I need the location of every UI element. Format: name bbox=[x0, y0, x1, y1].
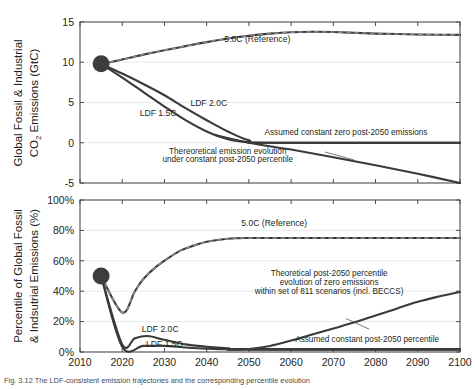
annotations: 5.0C (Reference)LDF 1.5CLDF 2.0CAssumed … bbox=[140, 34, 428, 165]
x-tick-label: 2010 bbox=[68, 356, 92, 368]
y-tick-label: 60% bbox=[53, 255, 74, 267]
start-marker-dot bbox=[93, 268, 110, 285]
y-tick-labels: -5051015 bbox=[62, 16, 74, 189]
x-tick-labels: 2010202020302040205020602070208020902100 bbox=[68, 356, 472, 368]
figure-container: -50510155.0C (Reference)LDF 1.5CLDF 2.0C… bbox=[0, 0, 475, 389]
y-axis-title-line2: CO2 Emissions (GtC) bbox=[28, 49, 43, 158]
bottom-y-axis-title: Percentile of Global Fossil& Indsutrial … bbox=[12, 209, 40, 343]
x-tick-label: 2090 bbox=[406, 356, 430, 368]
top-panel: -50510155.0C (Reference)LDF 1.5CLDF 2.0C… bbox=[62, 16, 460, 189]
theoretical-evolution-label-line2: under constant post-2050 percentile bbox=[162, 155, 293, 164]
figure-caption: Fig. 3.12 The LDF-consistent emission tr… bbox=[4, 376, 472, 388]
ldf15-label: LDF 1.5C bbox=[140, 108, 177, 118]
y-axis-title-line2: & Indsutrial Emissions (%) bbox=[28, 209, 40, 343]
x-tick-label: 2040 bbox=[195, 356, 219, 368]
start-marker-dot bbox=[93, 55, 110, 72]
theoretical-percentile-label-line1: Theoretical post-2050 percentile bbox=[271, 269, 388, 278]
constant-percentile-label: Assumed constant post-2050 percentile bbox=[295, 335, 439, 344]
reference-label: 5.0C (Reference) bbox=[224, 34, 290, 44]
theoretical-percentile-label-line3: within set of 811 scenarios (incl. BECCS… bbox=[254, 287, 404, 296]
y-tick-label: 15 bbox=[62, 16, 74, 28]
y-tick-label: 80% bbox=[53, 224, 74, 236]
y-axis-title-line1: Global Fossil & Industrial bbox=[12, 39, 24, 166]
y-axis-title-line1: Percentile of Global Fossil bbox=[12, 209, 24, 343]
ldf20-label: LDF 2.0C bbox=[190, 98, 227, 108]
x-tick-label: 2020 bbox=[111, 356, 135, 368]
y-tick-label: 100% bbox=[47, 194, 74, 206]
top-y-axis-title: Global Fossil & IndustrialCO2 Emissions … bbox=[12, 39, 43, 166]
emissions-percentile-figure: -50510155.0C (Reference)LDF 1.5CLDF 2.0C… bbox=[0, 0, 475, 389]
y-tick-labels: 0%20%40%60%80%100% bbox=[47, 194, 74, 358]
x-tick-label: 2030 bbox=[153, 356, 177, 368]
reference-label: 5.0C (Reference) bbox=[241, 218, 307, 228]
y-tick-label: 40% bbox=[53, 285, 74, 297]
theoretical-percentile-label-line2: evolution of zero emissions bbox=[280, 278, 379, 287]
y-tick-label: 10 bbox=[62, 56, 74, 68]
y-tick-label: 0 bbox=[68, 137, 74, 149]
zero-emissions-label: Assumed constant zero post-2050 emission… bbox=[265, 128, 428, 137]
ldf15-label: LDF 1.5C bbox=[146, 339, 183, 349]
x-tick-label: 2080 bbox=[364, 356, 388, 368]
y-tick-label: -5 bbox=[65, 177, 74, 189]
x-tick-label: 2100 bbox=[448, 356, 472, 368]
x-tick-label: 2050 bbox=[237, 356, 261, 368]
y-tick-label: 5 bbox=[68, 96, 74, 108]
y-tick-label: 20% bbox=[53, 315, 74, 327]
x-tick-label: 2070 bbox=[322, 356, 346, 368]
ldf20-label: LDF 2.0C bbox=[142, 324, 179, 334]
bottom-panel: 0%20%40%60%80%100%2010202020302040205020… bbox=[47, 194, 472, 368]
x-tick-label: 2060 bbox=[279, 356, 303, 368]
